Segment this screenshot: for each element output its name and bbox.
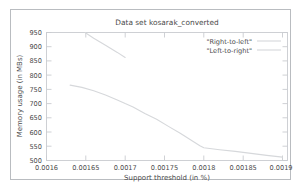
x-tick-label: 0.0017	[114, 164, 137, 172]
chart-title: Data set kosarak_converted	[115, 18, 219, 27]
y-tick-labels: 950 900 850 800 750 700 650 600 550 500	[29, 29, 42, 165]
y-tick-label: 850	[29, 57, 42, 65]
x-tick-label: 0.00185	[230, 164, 257, 172]
line-chart: Data set kosarak_converted 950 900 850 8…	[0, 0, 303, 194]
y-tick-label: 950	[29, 29, 42, 37]
x-tick-label: 0.0016	[35, 164, 58, 172]
x-tick-label: 0.0018	[192, 164, 215, 172]
chart-legend: "Right-to-left" "Left-to-right"	[206, 38, 281, 55]
y-tick-label: 600	[29, 129, 42, 137]
y-tick-label: 700	[29, 100, 42, 108]
y-axis-label: Memory usage (in MBs)	[16, 54, 24, 137]
y-tick-label: 650	[29, 114, 42, 122]
x-tick-label: 0.00175	[151, 164, 178, 172]
x-tick-labels: 0.0016 0.00165 0.0017 0.00175 0.0018 0.0…	[35, 164, 293, 172]
chart-figure: Data set kosarak_converted 950 900 850 8…	[0, 0, 303, 194]
series-line-right-to-left	[85, 33, 125, 58]
y-tick-label: 750	[29, 86, 42, 94]
y-tick-label: 900	[29, 43, 42, 51]
x-tick-label: 0.0019	[269, 164, 292, 172]
x-tick-label: 0.00165	[72, 164, 99, 172]
y-tick-label: 800	[29, 72, 42, 80]
x-axis-label: Support threshold (in %)	[124, 174, 210, 182]
y-tick-label: 550	[29, 143, 42, 151]
series-line-left-to-right	[70, 85, 282, 157]
legend-label-right-to-left: "Right-to-left"	[206, 38, 252, 46]
legend-label-left-to-right: "Left-to-right"	[207, 47, 252, 55]
